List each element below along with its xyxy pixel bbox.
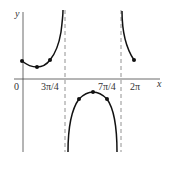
data-point xyxy=(77,97,81,101)
x-axis-label: x xyxy=(156,78,162,89)
data-point xyxy=(132,58,136,62)
data-point xyxy=(91,90,95,94)
origin-label: 0 xyxy=(14,81,19,92)
data-point xyxy=(105,97,109,101)
tick-label-7pi-4: 7π/4 xyxy=(98,81,116,92)
data-point xyxy=(20,59,24,63)
data-point xyxy=(48,58,52,62)
curve-branch-lower-middle xyxy=(68,92,117,152)
curve-branch-upper-right xyxy=(122,11,134,60)
data-point xyxy=(35,65,39,69)
tick-label-3pi-4: 3π/4 xyxy=(41,81,59,92)
curve-branch-upper-left xyxy=(22,10,63,67)
secant-graph: y x 0 3π/4 7π/4 2π xyxy=(0,0,174,170)
y-axis-label: y xyxy=(14,8,20,19)
tick-label-2pi: 2π xyxy=(130,81,140,92)
